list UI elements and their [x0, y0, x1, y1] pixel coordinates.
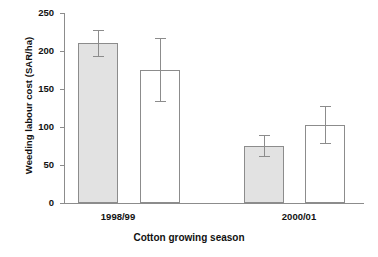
- errorbar-stem: [325, 106, 326, 144]
- x-axis-line: [64, 203, 364, 204]
- errorbar-stem: [264, 135, 265, 158]
- bar-chart-figure: Weeding labour cost (SAR/ha) 0 50 100 15…: [0, 0, 378, 257]
- errorbar-cap-top: [259, 135, 270, 136]
- y-tick-label-100: 100: [14, 121, 54, 132]
- y-tick-150: [60, 89, 64, 90]
- y-tick-label-250: 250: [14, 7, 54, 18]
- y-tick-label-50: 50: [14, 159, 54, 170]
- errorbar-cap-bottom: [93, 56, 104, 57]
- y-tick-0: [60, 203, 64, 204]
- y-tick-100: [60, 127, 64, 128]
- x-axis-title: Cotton growing season: [0, 232, 378, 243]
- errorbar-cap-top: [320, 106, 331, 107]
- y-tick-label-0: 0: [14, 197, 54, 208]
- x-group-label-1998-99: 1998/99: [58, 211, 178, 222]
- x-group-label-2000-01: 2000/01: [239, 211, 359, 222]
- errorbar-cap-top: [155, 38, 166, 39]
- bar-1998-99-shaded: [78, 43, 118, 203]
- errorbar-cap-bottom: [320, 143, 331, 144]
- y-tick-200: [60, 51, 64, 52]
- y-axis-line: [64, 13, 65, 203]
- y-tick-250: [60, 13, 64, 14]
- errorbar-cap-bottom: [155, 101, 166, 102]
- y-tick-label-200: 200: [14, 45, 54, 56]
- errorbar-stem: [98, 30, 99, 57]
- errorbar-cap-top: [93, 30, 104, 31]
- errorbar-cap-bottom: [259, 156, 270, 157]
- plot-area: 0 50 100 150 200 250: [64, 13, 364, 203]
- y-tick-label-150: 150: [14, 83, 54, 94]
- errorbar-stem: [160, 38, 161, 102]
- y-axis-title: Weeding labour cost (SAR/ha): [23, 11, 34, 201]
- y-tick-50: [60, 165, 64, 166]
